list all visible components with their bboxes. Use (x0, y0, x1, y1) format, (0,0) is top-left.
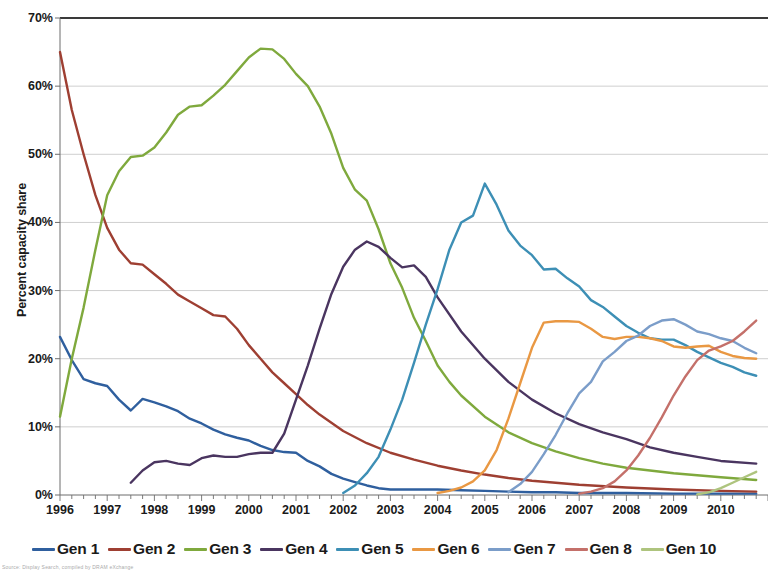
chart-legend: Gen 1Gen 2Gen 3Gen 4Gen 5Gen 6Gen 7Gen 8… (0, 536, 768, 562)
legend-label: Gen 3 (209, 540, 251, 558)
legend-label: Gen 4 (285, 540, 327, 558)
legend-label: Gen 2 (133, 540, 175, 558)
x-tick-label: 2010 (691, 503, 751, 517)
legend-label: Gen 1 (57, 540, 99, 558)
plot-area (0, 0, 768, 575)
y-tick-label: 60% (9, 79, 53, 93)
y-tick-label: 50% (9, 147, 53, 161)
series-line-gen-2 (60, 52, 756, 492)
series-line-gen-6 (438, 321, 757, 493)
y-tick-label: 10% (9, 420, 53, 434)
series-line-gen-8 (579, 321, 756, 494)
y-tick-label: 20% (9, 352, 53, 366)
legend-item[interactable]: Gen 5 (336, 540, 403, 558)
legend-item[interactable]: Gen 8 (565, 540, 632, 558)
legend-label: Gen 10 (666, 540, 717, 558)
legend-label: Gen 6 (437, 540, 479, 558)
y-tick-label: 0% (9, 488, 53, 502)
legend-label: Gen 7 (513, 540, 555, 558)
series-line-gen-3 (60, 49, 756, 480)
legend-color-swatch (641, 548, 664, 551)
series-line-gen-4 (131, 242, 756, 483)
legend-item[interactable]: Gen 2 (108, 540, 175, 558)
source-footnote: Source: Display Search, compiled by DRAM… (2, 564, 134, 570)
legend-color-swatch (412, 548, 435, 551)
series-line-gen-7 (508, 319, 756, 492)
axis-lines-group (55, 18, 768, 495)
legend-color-swatch (32, 548, 55, 551)
legend-label: Gen 5 (361, 540, 403, 558)
legend-item[interactable]: Gen 7 (488, 540, 555, 558)
legend-item[interactable]: Gen 1 (32, 540, 99, 558)
data-series-group (60, 49, 756, 495)
x-axis-ticks-group (60, 495, 768, 501)
y-tick-label: 70% (9, 11, 53, 25)
legend-label: Gen 8 (590, 540, 632, 558)
legend-item[interactable]: Gen 10 (641, 540, 717, 558)
y-axis-tick-labels: 0%10%20%30%40%50%60%70% (0, 0, 53, 575)
legend-item[interactable]: Gen 3 (184, 540, 251, 558)
legend-color-swatch (336, 548, 359, 551)
legend-color-swatch (565, 548, 588, 551)
legend-color-swatch (108, 548, 131, 551)
legend-item[interactable]: Gen 4 (260, 540, 327, 558)
y-tick-label: 30% (9, 284, 53, 298)
legend-item[interactable]: Gen 6 (412, 540, 479, 558)
y-tick-label: 40% (9, 215, 53, 229)
legend-color-swatch (488, 548, 511, 551)
legend-color-swatch (184, 548, 207, 551)
chart-container: Percent capacity share 0%10%20%30%40%50%… (0, 0, 768, 575)
legend-color-swatch (260, 548, 283, 551)
